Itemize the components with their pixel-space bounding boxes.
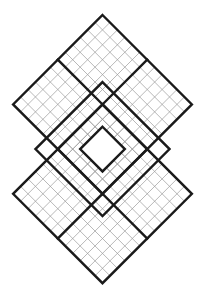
puzzle-board[interactable] — [0, 0, 205, 307]
